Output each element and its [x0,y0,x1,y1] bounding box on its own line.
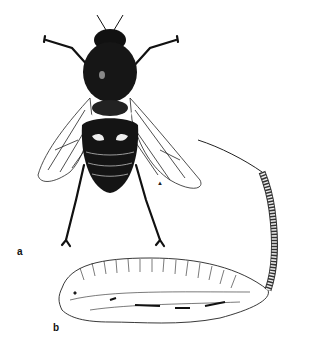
fly-thorax [83,42,137,102]
illustration-figure: a b ▲ [0,0,314,349]
panel-label-a: a [17,246,23,257]
larva-illustration [59,258,268,323]
panel-label-b: b [53,322,59,333]
fly-illustration [0,0,314,349]
fly-abdomen [82,118,138,193]
fly-antennae [97,15,123,30]
triangle-marker-icon: ▲ [157,180,163,186]
